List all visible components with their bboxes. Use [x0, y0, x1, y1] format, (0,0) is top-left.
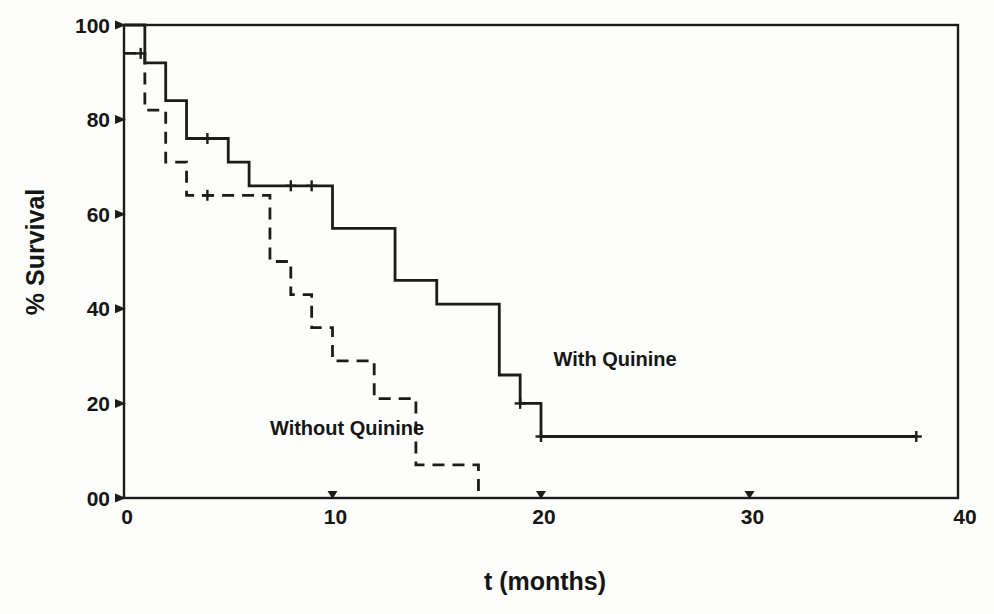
x-tick-label: 40: [953, 505, 976, 528]
y-axis-ticks: 1008060402000: [75, 14, 126, 510]
y-tick-label: 20: [87, 392, 110, 415]
y-tick-label: 60: [87, 203, 110, 226]
y-tick-label: 00: [87, 487, 110, 510]
censor-mark-with-quinine: [202, 133, 213, 144]
y-axis-title: % Survival: [21, 189, 49, 315]
series-label-without-quinine: Without Quinine: [270, 417, 424, 439]
y-tick-label: 100: [75, 14, 110, 37]
series-label-with-quinine: With Quinine: [554, 348, 677, 370]
censor-mark-with-quinine: [515, 398, 526, 409]
censor-mark-with-quinine: [285, 180, 296, 191]
x-axis-title: t (months): [484, 567, 606, 595]
censor-mark-without-quinine: [202, 190, 213, 201]
series-labels: With QuinineWithout Quinine: [270, 348, 677, 440]
y-tick-label: 80: [87, 108, 110, 131]
survival-chart-figure: 1008060402000 010203040 With QuinineWith…: [0, 0, 994, 614]
x-axis-ticks: 010203040: [121, 491, 977, 528]
x-tick-label: 0: [121, 505, 133, 528]
censor-mark-with-quinine: [306, 180, 317, 191]
censor-mark-with-quinine: [911, 431, 922, 442]
series-with-quinine-curve: [124, 25, 916, 437]
y-tick-label: 40: [87, 297, 110, 320]
survival-chart-canvas: 1008060402000 010203040 With QuinineWith…: [0, 0, 994, 614]
censor-mark-with-quinine: [536, 431, 547, 442]
x-tick-label: 30: [741, 505, 764, 528]
series-curves: [124, 25, 916, 498]
x-tick-label: 10: [324, 505, 347, 528]
x-tick-label: 20: [532, 505, 555, 528]
censor-marks: [135, 48, 922, 442]
